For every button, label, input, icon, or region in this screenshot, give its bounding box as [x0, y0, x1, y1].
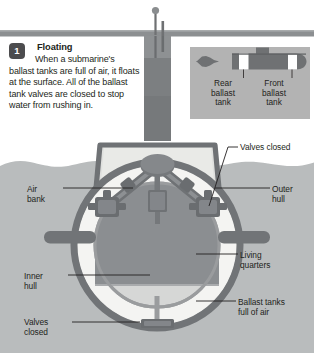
- valve-assembly-bottom: [141, 319, 174, 328]
- periscope-mast: [162, 21, 165, 37]
- callout-valves-closed-top: Valves closed: [240, 142, 312, 152]
- step-body-text: When a submarine's ballast tanks are ful…: [9, 54, 142, 112]
- step-heading: Floating: [37, 42, 72, 52]
- callout-inner-hull: Inner hull: [24, 271, 68, 291]
- antenna-mast: [154, 13, 156, 35]
- waterline-bar: [0, 30, 314, 37]
- hydroplane-left: [44, 231, 96, 244]
- inset-label-rear-ballast-tank: Rear ballast tank: [205, 79, 241, 108]
- air-distribution-hub: [141, 154, 175, 177]
- inset-label-front-ballast-tank: Front ballast tank: [255, 79, 293, 108]
- hydroplane-right: [218, 231, 270, 244]
- callout-air-bank: Air bank: [27, 184, 61, 204]
- living-quarters-deck-line: [95, 284, 219, 286]
- callout-ballast-tanks: Ballast tanks full of air: [238, 297, 314, 317]
- callout-living-quarters: Living quarters: [240, 250, 300, 270]
- callout-valves-closed-bottom: Valves closed: [24, 317, 70, 337]
- callout-outer-hull: Outer hull: [272, 184, 312, 204]
- antenna-ball: [152, 7, 159, 14]
